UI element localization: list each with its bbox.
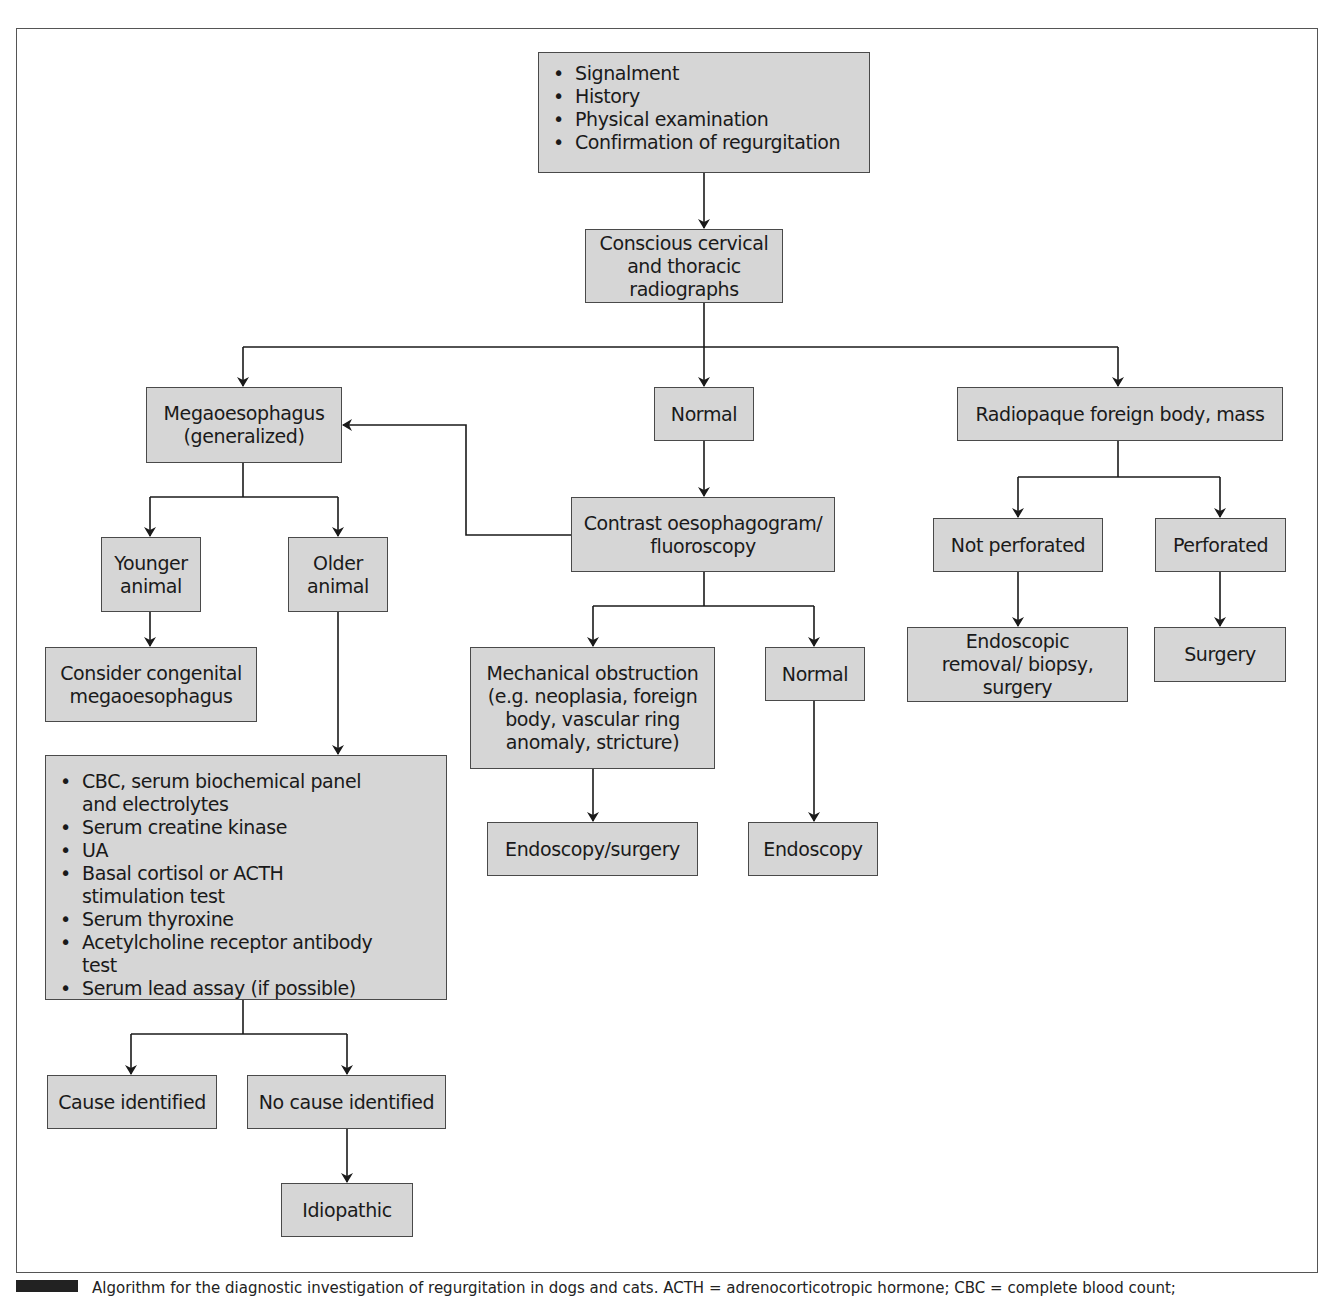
node-label: Not perforated <box>951 534 1085 557</box>
node-label: Perforated <box>1173 534 1268 557</box>
diagnostic-tests-list: CBC, serum biochemical panel and electro… <box>52 770 382 1000</box>
list-item: UA <box>52 839 382 862</box>
node-idiopathic: Idiopathic <box>281 1183 413 1237</box>
node-contrast: Contrast oesophagogram/ fluoroscopy <box>571 497 835 572</box>
list-item: Physical examination <box>545 108 840 131</box>
list-item: Signalment <box>545 62 840 85</box>
node-not-perforated: Not perforated <box>933 518 1103 572</box>
node-cause-identified: Cause identified <box>47 1075 217 1129</box>
list-item: Acetylcholine receptor antibody test <box>52 931 382 977</box>
node-label: Surgery <box>1184 643 1256 666</box>
figure-label-bar <box>16 1280 78 1292</box>
node-label: Cause identified <box>58 1091 206 1114</box>
list-item: Confirmation of regurgitation <box>545 131 840 154</box>
list-item: Serum creatine kinase <box>52 816 382 839</box>
node-radiographs: Conscious cervical and thoracic radiogra… <box>585 229 783 303</box>
initial-assessment-list: Signalment History Physical examination … <box>545 62 840 154</box>
node-label: Younger animal <box>108 552 194 598</box>
node-label: Conscious cervical and thoracic radiogra… <box>592 232 776 301</box>
node-congenital: Consider congenital megaoesophagus <box>45 647 257 722</box>
node-label: Idiopathic <box>302 1199 392 1222</box>
list-item: Serum thyroxine <box>52 908 382 931</box>
caption-text: Algorithm for the diagnostic investigati… <box>92 1279 1176 1297</box>
node-normal-contrast: Normal <box>765 647 865 701</box>
node-older-animal: Older animal <box>288 537 388 612</box>
node-younger-animal: Younger animal <box>101 537 201 612</box>
figure-caption: Algorithm for the diagnostic investigati… <box>16 1279 1326 1299</box>
node-mechanical-obstruction: Mechanical obstruction (e.g. neoplasia, … <box>470 647 715 769</box>
node-label: Radiopaque foreign body, mass <box>975 403 1264 426</box>
node-normal-radiograph: Normal <box>654 387 754 441</box>
node-diagnostic-tests: CBC, serum biochemical panel and electro… <box>45 755 447 1000</box>
list-item: History <box>545 85 840 108</box>
node-surgery: Surgery <box>1154 627 1286 682</box>
node-label: Consider congenital megaoesophagus <box>52 662 250 708</box>
node-label: Normal <box>671 403 737 426</box>
node-initial-assessment: Signalment History Physical examination … <box>538 52 870 173</box>
node-label: Mechanical obstruction (e.g. neoplasia, … <box>481 662 704 754</box>
node-label: Endoscopy/surgery <box>505 838 680 861</box>
node-no-cause-identified: No cause identified <box>247 1075 446 1129</box>
list-item: Serum lead assay (if possible) <box>52 977 382 1000</box>
list-item: Basal cortisol or ACTH stimulation test <box>52 862 382 908</box>
node-perforated: Perforated <box>1155 518 1286 572</box>
node-label: Normal <box>782 663 848 686</box>
node-endoscopy-surgery: Endoscopy/surgery <box>487 822 698 876</box>
node-label: No cause identified <box>259 1091 435 1114</box>
node-label: Megaoesophagus (generalized) <box>164 402 325 448</box>
node-label: Contrast oesophagogram/ fluoroscopy <box>578 512 828 558</box>
node-label: Endoscopy <box>763 838 862 861</box>
node-label: Endoscopic removal/ biopsy, surgery <box>928 630 1107 699</box>
node-label: Older animal <box>303 552 373 598</box>
node-endoscopic-removal: Endoscopic removal/ biopsy, surgery <box>907 627 1128 702</box>
node-endoscopy: Endoscopy <box>748 822 878 876</box>
node-megaoesophagus: Megaoesophagus (generalized) <box>146 387 342 463</box>
list-item: CBC, serum biochemical panel and electro… <box>52 770 382 816</box>
node-radiopaque: Radiopaque foreign body, mass <box>957 387 1283 441</box>
